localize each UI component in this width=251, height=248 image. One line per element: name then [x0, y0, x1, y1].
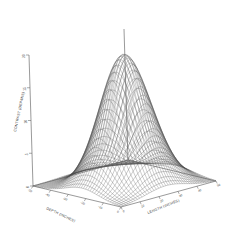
z-tick-label-1: 5 — [25, 153, 29, 155]
y-tick-label-4: 40 — [197, 188, 202, 193]
x-tick-label-5: 0 — [116, 209, 120, 213]
x-axis-line — [33, 186, 121, 207]
x-tick — [67, 194, 69, 197]
mesh-line — [75, 65, 170, 187]
x-tick — [102, 203, 104, 206]
mesh-line — [70, 81, 165, 188]
x-tick-label-2: -30 — [62, 196, 68, 202]
surface-plot-canvas: 05101520-50-40-30-20-10001020304050 CONT… — [0, 0, 251, 248]
x-tick — [120, 207, 122, 210]
y-tick-label-0: 0 — [122, 209, 125, 213]
x-tick-label-1: -40 — [45, 192, 51, 198]
mesh-line — [94, 88, 189, 193]
z-axis-title: CONTRAST (DEP/INS) — [13, 92, 25, 133]
mesh-line — [40, 161, 135, 187]
z-tick-label-2: 10 — [24, 120, 28, 124]
right-riser — [124, 29, 128, 160]
x-tick-label-3: -20 — [80, 200, 86, 206]
x-tick — [32, 186, 34, 189]
wireframe-mesh — [33, 54, 216, 206]
mesh-line — [73, 60, 161, 187]
x-tick-label-0: -50 — [27, 188, 33, 194]
x-axis-title: DEPTH (INCHES) — [46, 206, 76, 223]
mesh-line — [92, 79, 187, 193]
x-tick — [49, 190, 51, 193]
z-tick-label-3: 15 — [23, 87, 27, 91]
mesh-line — [119, 180, 214, 206]
z-tick-label-4: 20 — [22, 54, 26, 58]
y-tick-label-2: 20 — [159, 198, 164, 203]
surface-plot-figure: 05101520-50-40-30-20-10001020304050 CONT… — [0, 0, 251, 248]
y-axis-title: LENGTH (INCHES) — [147, 198, 180, 215]
mesh-line — [99, 104, 187, 184]
y-tick-label-1: 10 — [140, 203, 145, 208]
mesh-line — [88, 63, 183, 190]
mesh-line — [40, 175, 128, 204]
mesh-line — [45, 163, 133, 202]
y-tick-label-3: 30 — [178, 193, 183, 198]
x-tick — [84, 199, 86, 202]
mesh-line — [66, 80, 154, 190]
mesh-line — [59, 109, 147, 194]
x-tick-label-4: -10 — [97, 205, 103, 211]
y-tick-label-5: 50 — [216, 183, 221, 188]
